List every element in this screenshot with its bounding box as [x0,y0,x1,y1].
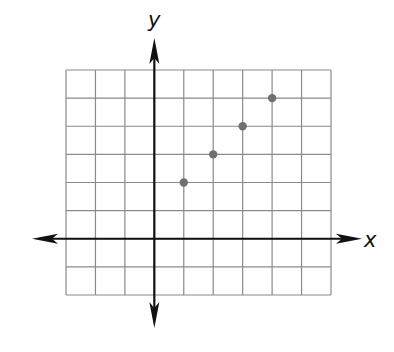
x-axis-label: x [363,228,377,252]
grid [66,70,331,295]
data-point [209,150,217,158]
axes: x y [32,8,377,328]
y-axis-label: y [147,8,161,32]
data-point [238,122,246,130]
data-points [180,94,277,187]
coordinate-plane: x y [0,0,394,352]
data-point [268,94,276,102]
data-point [180,178,188,186]
